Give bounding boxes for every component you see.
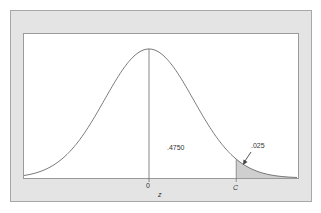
tail-area-label: .025 [251,142,265,149]
critical-value-label: C [233,184,238,191]
bell-curve [24,49,297,177]
normal-curve-chart [0,0,321,213]
middle-area-label: .4750 [167,144,185,151]
arrow-shaft [245,152,251,161]
z-axis-label: z [158,191,162,198]
zero-tick-label: 0 [146,182,150,189]
